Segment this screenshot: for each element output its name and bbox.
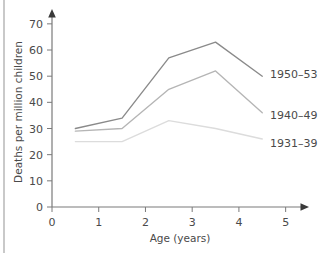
y-axis-tick-label: 10 <box>29 175 43 188</box>
line-chart-svg: 010203040506070 012345 1950–531940–49193… <box>0 0 323 253</box>
y-axis-tick-label: 50 <box>29 70 43 83</box>
x-axis-tick-label: 5 <box>282 216 289 229</box>
y-axis-tick-label: 30 <box>29 123 43 136</box>
legend-group: 1950–531940–491931–39 <box>270 68 318 150</box>
y-axis-tick-label: 60 <box>29 44 43 57</box>
data-series-group <box>75 42 262 141</box>
y-axis-tick-label: 20 <box>29 149 43 162</box>
y-axis-tick-label: 0 <box>36 201 43 214</box>
x-axis-tick-label: 1 <box>95 216 102 229</box>
legend-label: 1940–49 <box>270 109 318 122</box>
legend-label: 1950–53 <box>270 68 318 81</box>
x-axis-tick-label: 4 <box>235 216 242 229</box>
x-axis-tick-label: 3 <box>189 216 196 229</box>
chart-container: 010203040506070 012345 1950–531940–49193… <box>0 0 323 253</box>
legend-label: 1931–39 <box>270 137 318 150</box>
y-axis-tick-label: 40 <box>29 96 43 109</box>
data-series-line <box>75 42 262 128</box>
y-axis-title: Deaths per million children <box>12 41 24 183</box>
y-axis-arrow-icon <box>48 9 56 18</box>
y-axis-tick-group: 010203040506070 <box>29 18 52 214</box>
x-axis-tick-label: 2 <box>142 216 149 229</box>
y-axis-tick-label: 70 <box>29 18 43 31</box>
x-axis-title: Age (years) <box>150 232 211 244</box>
x-axis-tick-group: 012345 <box>49 207 290 229</box>
data-series-line <box>75 121 262 142</box>
x-axis-tick-label: 0 <box>49 216 56 229</box>
x-axis-arrow-icon <box>301 203 310 211</box>
